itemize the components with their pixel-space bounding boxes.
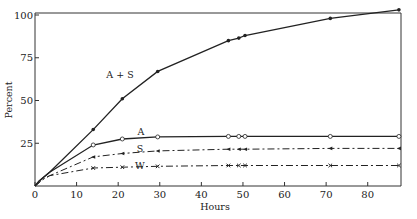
data-point-a	[226, 134, 230, 138]
series-label-w: W	[135, 160, 145, 171]
x-tick-label: 0	[32, 189, 38, 200]
data-point-a	[91, 143, 95, 147]
data-point-a-s	[243, 34, 247, 38]
y-tick-label: 25	[20, 138, 33, 149]
x-axis-label: Hours	[200, 201, 230, 212]
data-point-s	[91, 155, 95, 159]
data-point-a-s	[328, 17, 332, 21]
x-tick-label: 10	[70, 189, 83, 200]
series-line-w	[35, 166, 399, 187]
data-point-a	[397, 134, 401, 138]
data-point-s	[226, 147, 230, 151]
data-point-a-s	[121, 97, 125, 101]
series-label-a-plus-s: A + S	[105, 69, 133, 80]
x-tick-label: 80	[361, 189, 374, 200]
data-point-s	[237, 147, 241, 151]
x-tick-label: 30	[153, 189, 166, 200]
data-point-s	[156, 149, 160, 153]
x-tick-label: 50	[237, 189, 250, 200]
tick-labels: 01020304050607080255075100	[14, 10, 374, 201]
data-point-a	[237, 134, 241, 138]
line-chart: 01020304050607080255075100 Hours Percent…	[0, 0, 417, 219]
series-label-s: S	[137, 143, 144, 154]
data-point-a	[156, 135, 160, 139]
data-point-a-s	[227, 39, 231, 43]
y-tick-label: 100	[14, 10, 33, 21]
data-point-s	[397, 147, 401, 151]
data-point-s	[243, 147, 247, 151]
series-group	[35, 8, 401, 186]
data-point-s	[328, 147, 332, 151]
x-tick-label: 20	[112, 189, 125, 200]
x-tick-label: 70	[320, 189, 333, 200]
axes	[35, 13, 401, 186]
data-point-a	[120, 137, 124, 141]
series-line-s	[35, 148, 399, 186]
series-line-a	[35, 136, 399, 186]
data-point-a-s	[156, 70, 160, 74]
data-point-a-s	[397, 8, 401, 12]
data-point-a	[243, 134, 247, 138]
series-line-a-s	[35, 10, 399, 186]
y-tick-label: 75	[20, 52, 33, 63]
y-tick-label: 50	[20, 95, 33, 106]
data-point-s	[120, 152, 124, 156]
data-point-a	[328, 134, 332, 138]
series-label-a: A	[137, 126, 145, 137]
data-point-a-s	[91, 128, 95, 132]
data-point-a-s	[237, 36, 241, 40]
x-tick-label: 40	[195, 189, 208, 200]
x-tick-label: 60	[278, 189, 291, 200]
y-axis-label: Percent	[3, 81, 14, 118]
